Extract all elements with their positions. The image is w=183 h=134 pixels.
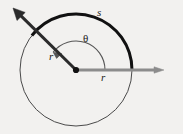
circle-arc-diagram-svg	[0, 0, 183, 134]
center-point-dot	[73, 67, 79, 73]
radius-label-diagonal: r	[49, 51, 53, 62]
radius-label-horizontal: r	[101, 72, 105, 83]
angle-label-theta: θ	[83, 33, 88, 44]
radius-horizontal-arrowhead-icon	[154, 67, 164, 73]
arc-length-label-s: s	[97, 7, 101, 18]
figure-container: s θ r r	[0, 0, 183, 134]
